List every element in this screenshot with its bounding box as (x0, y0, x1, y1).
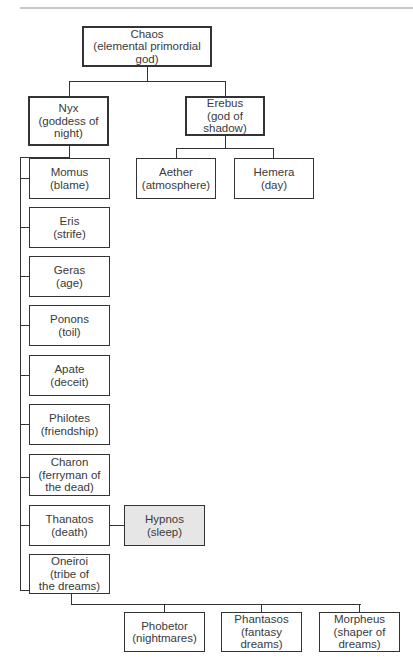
connector (225, 136, 226, 148)
connector (20, 590, 29, 591)
node-hypnos: Hypnos (sleep) (124, 505, 205, 546)
node-aether: Aether (atmosphere) (136, 158, 216, 199)
connector (176, 148, 273, 149)
connector (273, 148, 274, 158)
connector (69, 146, 70, 157)
connector (225, 81, 226, 96)
node-hemera: Hemera (day) (234, 158, 314, 199)
node-phantasos: Phantasos (fantasy dreams) (221, 612, 302, 652)
connector (147, 67, 148, 81)
node-label: Phobetor (nightmares) (132, 620, 197, 645)
node-label: Eris (strife) (53, 215, 86, 240)
node-erebus: Erebus (god of shadow) (185, 96, 265, 136)
node-label: Hemera (day) (254, 166, 295, 191)
node-label: Charon (ferryman of the dead) (39, 456, 101, 494)
connector (20, 477, 29, 478)
node-label: Philotes (friendship) (41, 412, 99, 437)
node-label: Geras (age) (54, 264, 85, 289)
node-thanatos: Thanatos (death) (29, 505, 110, 546)
connector (69, 81, 226, 82)
node-label: Momus (blame) (50, 166, 89, 191)
connector (176, 148, 177, 158)
node-philotes: Philotes (friendship) (29, 404, 110, 445)
node-phobetor: Phobetor (nightmares) (124, 612, 205, 652)
connector (261, 604, 262, 612)
node-label: Phantasos (fantasy dreams) (224, 613, 299, 651)
node-nyx: Nyx (goddess of night) (28, 96, 109, 146)
node-label: Apate (deceit) (50, 363, 88, 388)
connector (20, 424, 29, 425)
node-label: Thanatos (death) (46, 513, 94, 538)
node-label: Morpheus (shaper of dreams) (334, 613, 386, 651)
connector (164, 604, 165, 612)
node-label: Nyx (goddess of night) (38, 102, 98, 140)
node-morpheus: Morpheus (shaper of dreams) (319, 612, 400, 652)
node-charon: Charon (ferryman of the dead) (29, 454, 110, 496)
connector (109, 525, 124, 526)
top-divider (20, 7, 413, 9)
connector (20, 325, 29, 326)
node-momus: Momus (blame) (29, 158, 110, 199)
node-geras: Geras (age) (29, 256, 110, 297)
node-label: Chaos (elemental primordial god) (86, 28, 208, 66)
node-label: Aether (atmosphere) (142, 166, 210, 191)
connector (69, 81, 70, 96)
connector (359, 604, 360, 612)
connector (20, 276, 29, 277)
connector (71, 594, 72, 604)
node-label: Oneiroi (tribe of the dreams) (39, 555, 100, 593)
node-chaos: Chaos (elemental primordial god) (82, 26, 212, 67)
node-ponons: Ponons (toil) (29, 305, 110, 346)
connector (20, 525, 29, 526)
connector (20, 375, 29, 376)
node-apate: Apate (deceit) (29, 355, 110, 396)
node-label: Hypnos (sleep) (145, 513, 184, 538)
connector (20, 178, 29, 179)
node-oneiroi: Oneiroi (tribe of the dreams) (29, 554, 110, 594)
connector (71, 604, 361, 605)
node-label: Ponons (toil) (50, 313, 89, 338)
connector (20, 227, 29, 228)
node-label: Erebus (god of shadow) (189, 97, 261, 135)
node-eris: Eris (strife) (29, 207, 110, 248)
